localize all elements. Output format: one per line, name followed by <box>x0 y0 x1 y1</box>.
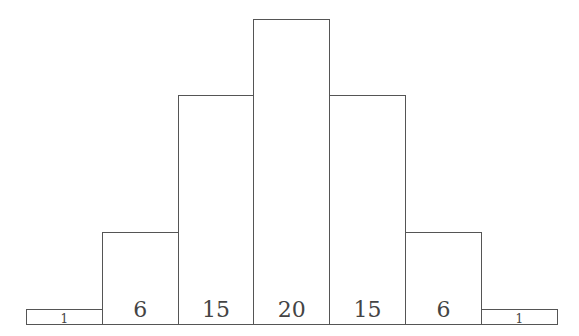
bar-value-label: 15 <box>330 298 405 322</box>
bar-4: 15 <box>329 95 406 325</box>
bar-3: 20 <box>253 19 330 325</box>
bar-value-label: 6 <box>406 298 481 322</box>
bar-value-label: 15 <box>179 298 254 322</box>
bar-2: 15 <box>178 95 255 325</box>
bar-value-label: 1 <box>27 312 102 326</box>
bar-value-label: 6 <box>103 298 178 322</box>
bar-value-label: 1 <box>482 312 557 326</box>
bar-5: 6 <box>405 232 482 325</box>
bar-6: 1 <box>481 309 558 325</box>
bar-1: 6 <box>102 232 179 325</box>
bar-0: 1 <box>26 309 103 325</box>
histogram-chart: 1615201561 <box>0 0 579 336</box>
bar-value-label: 20 <box>254 298 329 322</box>
